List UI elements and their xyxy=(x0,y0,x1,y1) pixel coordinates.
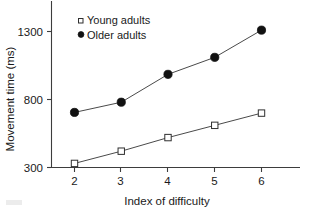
legend-label-older-adults: Older adults xyxy=(87,29,147,41)
legend-marker-filled-circle-icon xyxy=(78,32,84,38)
legend-marker-open-square-icon xyxy=(79,19,84,24)
x-tick-label-5: 5 xyxy=(211,175,217,187)
data-point-filled-circle xyxy=(257,26,265,34)
x-axis-ticks xyxy=(75,168,262,173)
y-axis-title: Movement time (ms) xyxy=(4,46,16,151)
data-point-filled-circle xyxy=(70,108,78,116)
y-tick-label-300: 300 xyxy=(24,162,43,174)
x-tick-label-6: 6 xyxy=(258,175,264,187)
data-point-filled-circle xyxy=(211,53,219,61)
figure-container: 1300 800 300 2 3 4 5 6 Index of difficul… xyxy=(0,0,309,211)
x-tick-label-2: 2 xyxy=(71,175,77,187)
legend: Young adults Older adults xyxy=(78,14,151,41)
x-tick-label-3: 3 xyxy=(117,175,123,187)
x-tick-label-4: 4 xyxy=(164,175,171,187)
line-chart: 1300 800 300 2 3 4 5 6 Index of difficul… xyxy=(0,0,309,211)
y-axis-ticks xyxy=(47,32,52,168)
data-point-filled-circle xyxy=(117,98,125,106)
data-point-open-square xyxy=(258,110,264,116)
legend-label-young-adults: Young adults xyxy=(87,14,151,26)
series-markers-young-adults xyxy=(71,110,264,167)
y-tick-label-1300: 1300 xyxy=(17,26,43,38)
data-point-open-square xyxy=(165,134,171,140)
x-axis-title: Index of difficulty xyxy=(124,195,210,207)
data-point-open-square xyxy=(212,122,218,128)
data-point-open-square xyxy=(71,160,77,166)
data-point-open-square xyxy=(118,148,124,154)
data-point-filled-circle xyxy=(164,70,172,78)
y-tick-label-800: 800 xyxy=(24,94,43,106)
